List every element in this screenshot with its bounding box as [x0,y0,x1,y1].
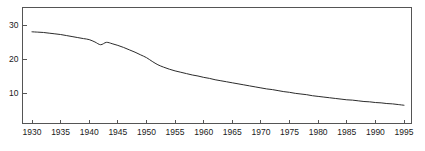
x-tick-label: 1930 [23,127,42,137]
chart-figure: 102030 193019351940194519501955196019651… [0,0,425,151]
x-tick-label: 1975 [280,127,299,137]
x-tick-label: 1985 [337,127,356,137]
x-axis-ticks: 1930193519401945195019551960196519701975… [23,120,414,137]
x-tick-label: 1965 [223,127,242,137]
x-tick-label: 1980 [309,127,328,137]
line-chart-svg: 102030 193019351940194519501955196019651… [0,0,425,151]
x-tick-label: 1990 [366,127,385,137]
x-tick-label: 1955 [166,127,185,137]
data-series-group [32,32,404,105]
x-tick-label: 1935 [51,127,70,137]
series-line-rate [32,32,404,105]
y-tick-label: 20 [9,54,19,64]
y-tick-label: 10 [9,88,19,98]
plot-border [23,8,412,124]
x-tick-label: 1995 [395,127,414,137]
x-tick-label: 1950 [137,127,156,137]
x-tick-label: 1940 [80,127,99,137]
y-axis-ticks: 102030 [9,20,26,98]
x-tick-label: 1970 [251,127,270,137]
plot-frame [23,8,412,124]
x-tick-label: 1945 [108,127,127,137]
x-tick-label: 1960 [194,127,213,137]
y-tick-label: 30 [9,20,19,30]
